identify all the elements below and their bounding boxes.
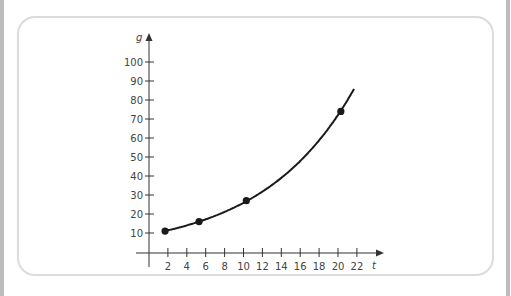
y-tick-label: 40 bbox=[130, 171, 143, 182]
y-axis-label: g bbox=[136, 32, 142, 43]
x-axis-arrow-icon bbox=[376, 250, 384, 257]
x-tick-label: 6 bbox=[203, 261, 209, 272]
data-point bbox=[195, 218, 202, 225]
x-axis-label: t bbox=[372, 260, 377, 271]
y-tick-label: 70 bbox=[130, 114, 143, 125]
y-tick-label: 20 bbox=[130, 209, 143, 220]
x-axis-ticks: 246810121416182022 bbox=[165, 248, 364, 272]
y-tick-label: 100 bbox=[124, 57, 143, 68]
data-point bbox=[161, 228, 168, 235]
x-tick-label: 14 bbox=[275, 261, 288, 272]
x-tick-label: 10 bbox=[237, 261, 250, 272]
x-tick-label: 4 bbox=[184, 261, 190, 272]
y-tick-label: 30 bbox=[130, 190, 143, 201]
y-tick-label: 60 bbox=[130, 133, 143, 144]
x-tick-label: 8 bbox=[221, 261, 227, 272]
y-tick-label: 10 bbox=[130, 228, 143, 239]
y-axis-arrow-icon bbox=[146, 33, 153, 41]
line-chart: 246810121416182022 102030405060708090100… bbox=[0, 0, 511, 296]
x-tick-label: 18 bbox=[313, 261, 326, 272]
y-tick-label: 80 bbox=[130, 95, 143, 106]
data-curve bbox=[165, 89, 354, 231]
x-tick-label: 22 bbox=[351, 261, 364, 272]
data-point bbox=[243, 197, 250, 204]
axes bbox=[136, 33, 384, 267]
data-points bbox=[161, 108, 344, 235]
data-point bbox=[337, 108, 344, 115]
x-tick-label: 16 bbox=[294, 261, 307, 272]
x-tick-label: 20 bbox=[332, 261, 345, 272]
y-tick-label: 90 bbox=[130, 76, 143, 87]
x-tick-label: 2 bbox=[165, 261, 171, 272]
y-tick-label: 50 bbox=[130, 152, 143, 163]
x-tick-label: 12 bbox=[256, 261, 269, 272]
